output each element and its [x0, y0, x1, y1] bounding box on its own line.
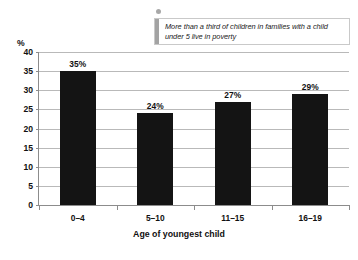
bar	[215, 102, 251, 205]
y-axis-tick-mark	[36, 71, 39, 72]
bar-value-label: 27%	[224, 90, 241, 100]
x-axis-tick-label: 11–15	[221, 213, 244, 223]
y-axis-tick-mark	[36, 52, 39, 53]
callout-text: More than a third of children in familie…	[159, 22, 349, 41]
bar	[60, 71, 96, 205]
bar-value-label: 24%	[147, 101, 164, 111]
x-axis-tick-mark	[349, 205, 350, 210]
y-axis-tick-mark	[36, 148, 39, 149]
y-axis-tick-mark	[36, 167, 39, 168]
y-axis-tick-label: 40	[23, 47, 33, 57]
callout-box: More than a third of children in familie…	[154, 18, 350, 45]
y-axis-tick-mark	[36, 90, 39, 91]
y-axis-tick-label: 30	[23, 85, 33, 95]
y-axis-tick-mark	[36, 129, 39, 130]
x-axis-tick-mark	[117, 205, 118, 210]
y-axis-tick-label: 10	[23, 162, 33, 172]
y-axis-tick-mark	[36, 186, 39, 187]
y-axis-tick-label: 35	[23, 66, 33, 76]
bar	[292, 94, 328, 205]
bar-value-label: 29%	[302, 82, 319, 92]
bar	[137, 113, 173, 205]
x-axis-tick-label: 0–4	[71, 213, 85, 223]
x-axis-title: Age of youngest child	[0, 229, 358, 239]
bar-chart: More than a third of children in familie…	[0, 0, 358, 260]
x-axis-tick-label: 16–19	[299, 213, 322, 223]
y-axis-tick-label: 20	[23, 124, 33, 134]
y-axis-tick-label: 15	[23, 143, 33, 153]
x-axis-tick-mark	[272, 205, 273, 210]
bullet-dot-icon	[156, 9, 161, 14]
y-axis-tick-mark	[36, 109, 39, 110]
y-axis-tick-label: 5	[28, 181, 33, 191]
gridline	[39, 52, 349, 53]
y-axis-tick-label: 25	[23, 104, 33, 114]
x-axis-tick-mark	[39, 205, 40, 210]
plot-area: 051015202530354035%0–424%5–1027%11–1529%…	[38, 52, 349, 205]
bar-value-label: 35%	[69, 59, 86, 69]
y-axis-tick-label: 0	[28, 200, 33, 210]
x-axis-tick-mark	[194, 205, 195, 210]
x-axis-tick-label: 5–10	[146, 213, 165, 223]
